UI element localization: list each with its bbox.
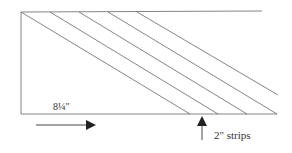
diagonal-line-1 [21, 12, 190, 114]
diagonal-line-5 [137, 12, 278, 95]
strips-label: 2" strips [214, 129, 251, 141]
up-arrow-icon [197, 116, 207, 140]
dimension-label: 8¼" [53, 101, 70, 112]
right-arrow-icon [36, 120, 96, 130]
top-edge-line [21, 11, 262, 12]
